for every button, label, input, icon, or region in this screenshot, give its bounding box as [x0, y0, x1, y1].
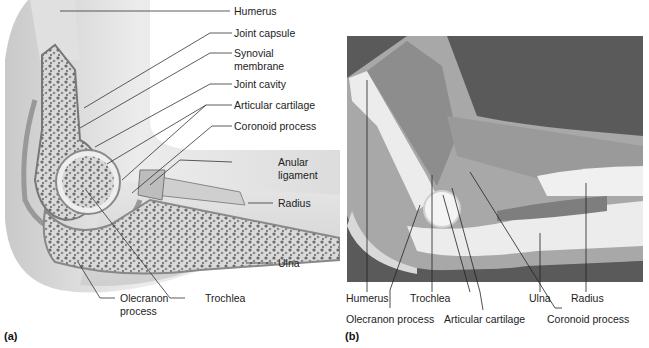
panel-label-a: (a)	[4, 330, 17, 342]
label-joint-cavity: Joint cavity	[234, 78, 286, 91]
label-ulna: Ulna	[278, 257, 300, 270]
label-articular-cartilage: Articular cartilage	[234, 99, 315, 112]
label-synovial-membrane-line1: Synovial	[234, 47, 274, 60]
label-b-olecranon-process: Olecranon process	[346, 313, 434, 326]
label-anular-ligament-line1: Anular	[278, 156, 308, 169]
label-b-ulna: Ulna	[529, 292, 551, 305]
label-b-coronoid-process: Coronoid process	[547, 313, 629, 326]
label-b-humerus: Humerus	[346, 292, 389, 305]
label-anular-ligament-line2: ligament	[278, 169, 318, 182]
label-joint-capsule: Joint capsule	[234, 27, 295, 40]
label-olecranon-process-line2: process	[120, 305, 157, 318]
label-humerus: Humerus	[234, 5, 277, 18]
label-b-trochlea: Trochlea	[410, 292, 450, 305]
label-radius: Radius	[278, 197, 311, 210]
label-coronoid-process: Coronoid process	[234, 120, 316, 133]
panel-a-illustration: Humerus Joint capsule Synovial membrane …	[0, 0, 340, 348]
label-b-articular-cartilage: Articular cartilage	[444, 313, 525, 326]
label-olecranon-process-line1: Olecranon	[120, 292, 168, 305]
label-b-radius: Radius	[571, 292, 604, 305]
panel-label-b: (b)	[345, 330, 359, 342]
label-synovial-membrane-line2: membrane	[234, 60, 284, 73]
label-trochlea: Trochlea	[205, 292, 245, 305]
panel-b-photograph: Humerus Trochlea Ulna Radius Olecranon p…	[340, 0, 649, 348]
